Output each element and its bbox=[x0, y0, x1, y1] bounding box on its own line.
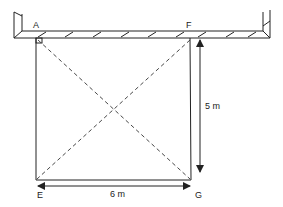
beam-hatching bbox=[38, 32, 256, 37]
point-label-a: A bbox=[33, 21, 39, 30]
point-label-e: E bbox=[37, 191, 43, 200]
point-label-f: F bbox=[186, 21, 192, 30]
diagonals bbox=[37, 40, 190, 179]
width-label: 6 m bbox=[110, 190, 125, 199]
point-label-g: G bbox=[195, 191, 202, 200]
diagram-drawing bbox=[0, 0, 283, 207]
beam bbox=[14, 31, 270, 38]
height-label: 5 m bbox=[205, 102, 220, 111]
diagram-canvas: A F E G 5 m 6 m bbox=[0, 0, 283, 207]
